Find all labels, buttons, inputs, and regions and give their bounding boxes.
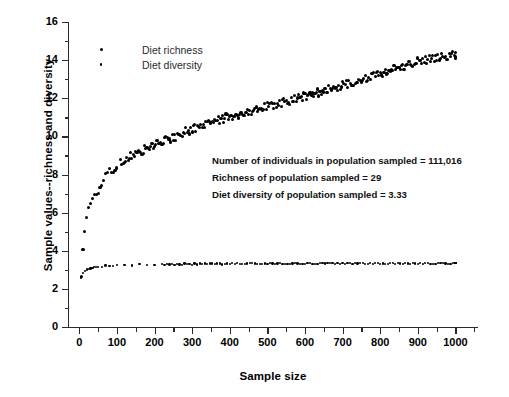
y-tick-major: 16 xyxy=(62,22,68,23)
data-point xyxy=(280,105,283,108)
chart-legend: Diet richness Diet diversity xyxy=(100,42,203,72)
data-point xyxy=(231,118,234,121)
x-tick-major xyxy=(455,328,456,334)
x-tick-major xyxy=(305,328,306,334)
data-point xyxy=(191,130,194,133)
data-point xyxy=(305,98,308,101)
x-tick-minor xyxy=(399,328,400,332)
data-point xyxy=(219,117,222,120)
x-tick-label: 400 xyxy=(221,336,239,348)
x-tick-major xyxy=(343,328,344,334)
legend-item-diet-diversity: Diet diversity xyxy=(100,57,203,72)
y-axis-line xyxy=(68,22,69,327)
y-tick-label: 14 xyxy=(46,53,58,65)
data-point xyxy=(203,126,206,129)
x-tick-label: 0 xyxy=(76,336,82,348)
data-point xyxy=(359,262,361,264)
y-tick-major: 12 xyxy=(62,98,68,99)
data-point xyxy=(101,266,103,268)
data-point xyxy=(369,262,371,264)
data-point xyxy=(112,265,114,267)
x-tick-minor xyxy=(136,328,137,332)
data-point xyxy=(212,121,215,124)
data-point xyxy=(323,87,326,90)
x-tick-minor xyxy=(173,328,174,332)
data-point xyxy=(265,108,268,111)
y-tick-label: 0 xyxy=(52,320,58,332)
data-point xyxy=(81,248,84,251)
data-point xyxy=(326,91,329,94)
y-tick-label: 12 xyxy=(46,91,58,103)
data-point xyxy=(201,263,203,265)
data-point xyxy=(454,51,457,54)
x-tick-label: 500 xyxy=(258,336,276,348)
data-point xyxy=(138,263,140,265)
legend-label: Diet diversity xyxy=(142,59,202,71)
data-point xyxy=(116,264,118,266)
data-point xyxy=(346,86,349,89)
y-tick-major: 6 xyxy=(62,213,68,214)
data-point xyxy=(295,100,298,103)
x-tick-minor xyxy=(286,328,287,332)
data-point xyxy=(374,262,376,264)
data-point xyxy=(83,230,86,233)
data-point xyxy=(148,148,151,151)
data-point xyxy=(162,142,165,145)
y-tick-minor xyxy=(65,194,69,195)
x-tick-label: 100 xyxy=(108,336,126,348)
x-tick-label: 1000 xyxy=(443,336,467,348)
y-tick-major: 0 xyxy=(62,327,68,328)
data-point xyxy=(106,171,109,174)
data-point xyxy=(108,167,111,170)
data-point xyxy=(384,68,387,71)
data-point xyxy=(288,103,291,106)
legend-marker-dot-icon xyxy=(100,63,142,65)
legend-marker-circle-icon xyxy=(100,48,142,51)
annotation-line-individuals: Number of individuals in population samp… xyxy=(212,152,462,169)
data-point xyxy=(181,135,184,138)
x-tick-minor xyxy=(98,328,99,332)
y-tick-minor xyxy=(65,41,69,42)
data-point xyxy=(379,263,381,265)
y-tick-major: 10 xyxy=(62,136,68,137)
data-point xyxy=(402,68,405,71)
data-point xyxy=(82,272,84,274)
x-tick-major xyxy=(79,328,80,334)
legend-item-diet-richness: Diet richness xyxy=(100,42,203,57)
data-point xyxy=(364,74,367,77)
data-point xyxy=(100,184,103,187)
x-tick-label: 800 xyxy=(371,336,389,348)
x-tick-minor xyxy=(361,328,362,332)
x-tick-label: 300 xyxy=(183,336,201,348)
data-point xyxy=(97,192,100,195)
data-point xyxy=(131,264,133,266)
data-point xyxy=(227,118,230,121)
annotation-line-richness: Richness of population sampled = 29 xyxy=(212,169,462,186)
x-axis-title: Sample size xyxy=(68,370,478,382)
x-tick-minor xyxy=(249,328,250,332)
x-tick-label: 900 xyxy=(409,336,427,348)
data-point xyxy=(340,85,343,88)
y-tick-label: 2 xyxy=(52,282,58,294)
data-point xyxy=(290,96,293,99)
y-tick-minor xyxy=(65,270,69,271)
figure-container: Sample values--richness and diversity 02… xyxy=(0,0,509,397)
annotation-block: Number of individuals in population samp… xyxy=(212,152,462,203)
data-point xyxy=(211,262,213,264)
data-point xyxy=(97,266,99,268)
x-tick-major xyxy=(267,328,268,334)
data-point xyxy=(374,75,377,78)
x-tick-major xyxy=(230,328,231,334)
y-tick-minor xyxy=(65,308,69,309)
data-point xyxy=(89,202,92,205)
x-tick-label: 600 xyxy=(296,336,314,348)
data-point xyxy=(454,262,456,264)
data-point xyxy=(243,114,246,117)
x-tick-major xyxy=(380,328,381,334)
y-tick-minor xyxy=(65,155,69,156)
y-tick-label: 4 xyxy=(52,244,58,256)
y-tick-minor xyxy=(65,117,69,118)
data-point xyxy=(133,155,136,158)
data-point xyxy=(108,265,110,267)
data-point xyxy=(102,179,105,182)
